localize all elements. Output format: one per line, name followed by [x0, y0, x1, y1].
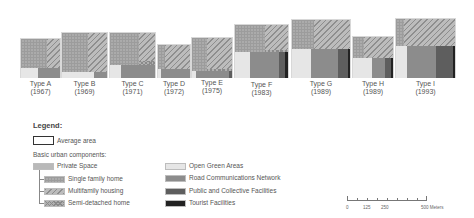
road-label: Road Communications Network [189, 174, 280, 182]
tourist-facilities-area [285, 52, 288, 78]
scale-tick [407, 198, 408, 201]
open-green-area [235, 52, 250, 78]
semi-detached-swatch [44, 200, 65, 207]
public-facilities-area [436, 46, 453, 78]
road-network-area [372, 58, 385, 78]
open-green-area [110, 65, 121, 78]
type-label: Type G(1989) [291, 80, 351, 96]
open-green-label: Open Green Areas [189, 162, 243, 170]
public-facilities-area [229, 71, 232, 78]
single-family-area [292, 20, 314, 49]
legend-title: Legend: [33, 121, 62, 130]
single-family-area [353, 37, 364, 58]
single-family-area [158, 45, 165, 69]
road-network-area [38, 68, 60, 78]
type-a-block [20, 38, 61, 78]
single-family-label: Single family home [68, 175, 123, 183]
road-network-area [407, 46, 436, 78]
average-area-swatch [33, 136, 54, 145]
scale-label-125: 125 [363, 205, 371, 210]
multifamily-area [139, 33, 155, 61]
type-h-block [352, 36, 394, 78]
multifamily-area [364, 37, 393, 58]
type-label: Type C(1971) [109, 80, 156, 96]
tourist-facilities-label: Tourist Facilities [189, 199, 235, 207]
single-family-area [192, 38, 207, 71]
single-family-area [110, 33, 139, 65]
single-family-area [235, 25, 265, 52]
private-space-label: Private Space [57, 162, 97, 170]
single-family-area [396, 19, 404, 46]
type-e-block [191, 37, 233, 78]
road-network-area [311, 49, 338, 78]
open-green-area [62, 72, 94, 78]
type-c-block [109, 32, 156, 78]
multifamily-area [207, 38, 232, 69]
tree-connector [39, 170, 40, 204]
single-family-swatch [44, 176, 65, 183]
type-g-block [291, 19, 351, 78]
average-area-label: Average area [57, 137, 96, 145]
type-d-block [157, 44, 191, 78]
type-i-block [395, 18, 456, 78]
scale-label-0: 0 [346, 205, 349, 210]
type-label: Type I(1993) [395, 80, 456, 96]
type-label: Type B(1969) [61, 80, 108, 96]
road-network-area [94, 72, 107, 78]
public-facilities-area [338, 49, 348, 78]
scale-tick [347, 196, 348, 201]
multifamily-label: Multifamily housing [68, 187, 123, 195]
scale-tick [397, 198, 398, 201]
multifamily-area [404, 19, 455, 46]
single-family-area [21, 39, 47, 68]
public-facilities-label: Public and Collective Facilities [189, 187, 276, 195]
scale-tick [426, 196, 427, 201]
multifamily-area [165, 45, 190, 69]
road-network-area [250, 52, 279, 78]
type-label: Type A(1967) [20, 80, 61, 96]
open-green-swatch [165, 163, 186, 170]
scale-label-250: 250 [381, 205, 389, 210]
scale-tick [377, 198, 378, 201]
multifamily-area [88, 33, 107, 72]
multifamily-swatch [44, 188, 65, 195]
type-label: Type D(1972) [157, 80, 191, 96]
multifamily-area [265, 25, 288, 50]
type-b-block [61, 32, 108, 78]
private-space-swatch [33, 163, 54, 170]
road-network-area [196, 71, 229, 78]
multifamily-area [314, 20, 350, 49]
type-label: Type H(1989) [352, 80, 394, 96]
semi-detached-label: Semi-detached home [68, 199, 130, 207]
scale-tick [367, 198, 368, 201]
type-label: Type F(1983) [234, 81, 289, 97]
road-network-area [121, 65, 155, 78]
open-green-area [353, 58, 372, 78]
tourist-facilities-swatch [165, 200, 186, 207]
scale-tick [387, 198, 388, 201]
single-family-area [62, 33, 88, 72]
road-network-area [161, 69, 190, 78]
public-facilities-swatch [165, 188, 186, 195]
road-swatch [165, 175, 186, 182]
scale-tick [417, 198, 418, 201]
tourist-facilities-area [453, 46, 455, 78]
open-green-area [21, 68, 38, 78]
tourist-facilities-area [348, 49, 350, 78]
multifamily-area [47, 39, 60, 68]
components-heading: Basic urban components: [33, 151, 106, 159]
scale-label-500: 500 Meters [421, 205, 444, 210]
type-f-block [234, 24, 289, 78]
open-green-area [292, 49, 311, 78]
open-green-area [396, 46, 407, 78]
tourist-facilities-area [391, 58, 393, 78]
scale-tick [357, 198, 358, 201]
type-label: Type E(1975) [191, 79, 233, 95]
